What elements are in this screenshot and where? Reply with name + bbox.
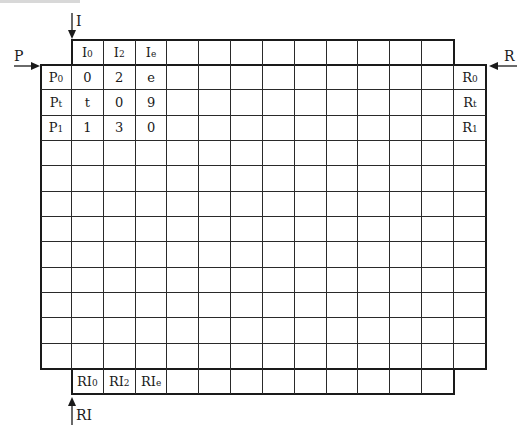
ri-header-cell	[263, 369, 295, 394]
grid-cell	[167, 192, 199, 217]
p-header-cell	[41, 141, 72, 166]
grid-cell	[104, 242, 136, 267]
r-header-cell	[454, 141, 486, 166]
grid-cell	[358, 293, 390, 318]
p-header-cell	[41, 242, 72, 267]
grid-cell	[199, 242, 231, 267]
ri-header-cell	[231, 369, 263, 394]
r-header-cell: R1	[454, 116, 486, 141]
grid-cell	[295, 166, 327, 191]
grid-cell	[167, 268, 199, 293]
cropped-text-fragment	[0, 0, 80, 3]
cell-value: t	[85, 96, 90, 109]
grid-cell	[358, 166, 390, 191]
grid-cell	[167, 116, 199, 141]
grid-cell	[263, 65, 295, 90]
grid-cell	[104, 318, 136, 343]
grid-cell	[104, 217, 136, 242]
grid-cell	[422, 318, 454, 343]
grid-cell	[263, 318, 295, 343]
grid-cell	[231, 141, 263, 166]
i-header-cell	[263, 40, 295, 65]
grid-cell	[327, 293, 359, 318]
grid-cell	[136, 242, 168, 267]
cell-label-subscript: 0	[58, 75, 64, 84]
grid-cell	[104, 344, 136, 369]
grid-cell	[231, 90, 263, 115]
grid-cell	[358, 192, 390, 217]
cell-value: 0	[115, 96, 123, 109]
grid-cell: 9	[136, 90, 168, 115]
grid-cell	[72, 192, 104, 217]
grid-cell	[295, 90, 327, 115]
p-arrow-label: P	[14, 49, 23, 63]
grid-cell	[327, 65, 359, 90]
grid-cell	[358, 242, 390, 267]
cell-label-subscript: t	[473, 100, 477, 109]
grid-cell	[231, 217, 263, 242]
cell-label-subscript: 0	[472, 75, 478, 84]
ri-header-cell: RI2	[104, 369, 136, 394]
ri-header-cell	[167, 369, 199, 394]
p-header-cell	[41, 268, 72, 293]
grid-cell	[295, 268, 327, 293]
grid-cell	[358, 268, 390, 293]
grid-cell	[422, 90, 454, 115]
grid-cell	[72, 217, 104, 242]
ri-header-cell	[295, 369, 327, 394]
grid-cell	[167, 318, 199, 343]
cell-value: e	[147, 71, 155, 84]
grid-cell	[327, 268, 359, 293]
p-header-cell	[41, 166, 72, 191]
grid-cell	[231, 344, 263, 369]
grid-cell	[199, 217, 231, 242]
cell-label-base: P	[49, 71, 58, 84]
grid-cell	[358, 65, 390, 90]
cell-label-base: R	[462, 71, 472, 84]
grid-cell	[231, 293, 263, 318]
grid-cell	[390, 242, 422, 267]
grid-cell	[390, 318, 422, 343]
cell-label-subscript: 1	[58, 125, 64, 134]
p-header-cell	[41, 318, 72, 343]
grid-cell	[72, 141, 104, 166]
cell-value: 0	[83, 71, 91, 84]
grid-cell	[104, 293, 136, 318]
grid-cell: 0	[136, 116, 168, 141]
grid-cell	[263, 344, 295, 369]
grid-cell	[231, 318, 263, 343]
grid-cell	[422, 268, 454, 293]
grid-cell	[327, 192, 359, 217]
grid-cell	[199, 318, 231, 343]
grid-cell: e	[136, 65, 168, 90]
cell-label-subscript: t	[59, 100, 63, 109]
cell-label-subscript: 2	[124, 379, 130, 388]
grid-cell	[295, 293, 327, 318]
cell-label-subscript: 0	[87, 50, 93, 59]
grid-cell	[295, 242, 327, 267]
cell-label-base: R	[463, 96, 473, 109]
grid-cell	[327, 166, 359, 191]
grid-cell	[231, 192, 263, 217]
p-header-cell	[41, 293, 72, 318]
cell-label-subscript: e	[151, 50, 156, 59]
grid-cell	[136, 268, 168, 293]
ri-header-cell	[422, 369, 454, 394]
grid-cell: 0	[104, 90, 136, 115]
grid-cell	[295, 141, 327, 166]
r-header-cell	[454, 344, 486, 369]
cell-label-subscript: 0	[92, 379, 98, 388]
grid-cell	[263, 166, 295, 191]
ri-header-cell	[327, 369, 359, 394]
grid-cell	[422, 166, 454, 191]
grid-cell	[136, 318, 168, 343]
r-header-cell	[454, 242, 486, 267]
grid-cell	[136, 344, 168, 369]
i-header-cell	[390, 40, 422, 65]
grid-cell	[136, 141, 168, 166]
grid-cell	[136, 293, 168, 318]
grid-cell	[263, 141, 295, 166]
r-arrow-label: R	[504, 49, 515, 63]
ri-header-cell: RIe	[136, 369, 168, 394]
grid-cell	[358, 344, 390, 369]
